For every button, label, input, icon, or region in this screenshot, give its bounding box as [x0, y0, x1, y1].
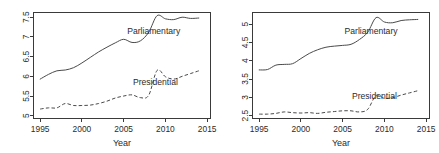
series-line-presidential: [40, 70, 199, 109]
x-axis-tick-label: 2010: [375, 124, 394, 134]
y-axis-tick-label: 6: [21, 74, 31, 79]
x-axis-tick-label: 1995: [31, 124, 50, 134]
figure-container: 1995200020052010201555.566.577.5YearParl…: [0, 0, 439, 153]
series-line-parliamentary: [259, 17, 418, 70]
y-axis-tick-label: 4: [240, 58, 250, 63]
chart-left-svg: 1995200020052010201555.566.577.5YearParl…: [0, 0, 219, 153]
series-label-presidential: Presidential: [133, 77, 178, 87]
y-axis-tick-label: 5: [21, 113, 31, 118]
series-label-presidential: Presidential: [352, 91, 397, 101]
y-axis-tick-label: 7: [21, 34, 31, 39]
x-axis-tick-label: 2005: [333, 124, 352, 134]
y-axis-tick-label: 7.5: [21, 11, 31, 23]
x-axis-title: Year: [332, 138, 350, 148]
x-axis-tick-label: 2015: [198, 124, 217, 134]
chart-right-svg: 199520002005201020152.533.544.55YearParl…: [219, 0, 438, 153]
x-axis-tick-label: 1995: [250, 124, 269, 134]
y-axis-tick-label: 5.5: [21, 90, 31, 102]
chart-panel-right: 199520002005201020152.533.544.55YearParl…: [219, 0, 438, 153]
x-axis-tick-label: 2015: [417, 124, 436, 134]
chart-left-content: 1995200020052010201555.566.577.5YearParl…: [21, 11, 217, 147]
y-axis-tick-label: 3: [240, 95, 250, 100]
y-axis-tick-label: 2.5: [240, 109, 250, 121]
plot-frame: [34, 13, 211, 119]
y-axis-tick-label: 3.5: [240, 73, 250, 85]
x-axis-tick-label: 2000: [292, 124, 311, 134]
chart-right-content: 199520002005201020152.533.544.55YearParl…: [240, 13, 436, 148]
series-label-parliamentary: Parliamentary: [345, 26, 399, 36]
x-axis-tick-label: 2010: [156, 124, 175, 134]
chart-panel-left: 1995200020052010201555.566.577.5YearParl…: [0, 0, 219, 153]
series-label-parliamentary: Parliamentary: [127, 26, 181, 36]
x-axis-tick-label: 2005: [114, 124, 133, 134]
plot-frame: [253, 13, 430, 119]
y-axis-tick-label: 4.5: [240, 36, 250, 48]
x-axis-tick-label: 2000: [73, 124, 92, 134]
series-line-parliamentary: [40, 15, 199, 79]
y-axis-tick-label: 6.5: [21, 50, 31, 62]
x-axis-title: Year: [113, 138, 131, 148]
y-axis-tick-label: 5: [240, 22, 250, 27]
